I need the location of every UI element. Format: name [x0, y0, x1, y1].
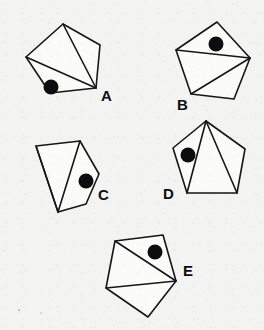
shape-label-d: D: [163, 185, 174, 202]
shape-label-b: B: [177, 96, 188, 113]
shape-group-d[interactable]: D: [163, 121, 245, 202]
shape-label-a: A: [101, 87, 112, 104]
pentagon-outline-e: [106, 235, 176, 317]
paper-speck-group: [18, 309, 42, 314]
figure-canvas: A B C D: [0, 0, 264, 330]
pentagon-outline-b: [176, 22, 250, 99]
shape-group-a[interactable]: A: [26, 24, 112, 104]
pentagon-dot-c: [79, 174, 94, 189]
pentagon-dot-b: [209, 37, 224, 52]
shape-label-e: E: [183, 262, 193, 279]
pentagon-dot-d: [181, 148, 196, 163]
shape-group-c[interactable]: C: [36, 141, 109, 212]
shape-group-e[interactable]: E: [106, 235, 193, 317]
pentagon-dot-e: [148, 245, 163, 260]
pentagon-figure-svg: A B C D: [0, 0, 264, 330]
pentagon-outline-a: [26, 24, 100, 93]
pentagon-dot-a: [44, 80, 59, 95]
shape-group-b[interactable]: B: [176, 22, 250, 113]
shape-label-c: C: [98, 186, 109, 203]
paper-speck: [18, 309, 20, 311]
paper-speck: [40, 312, 42, 314]
